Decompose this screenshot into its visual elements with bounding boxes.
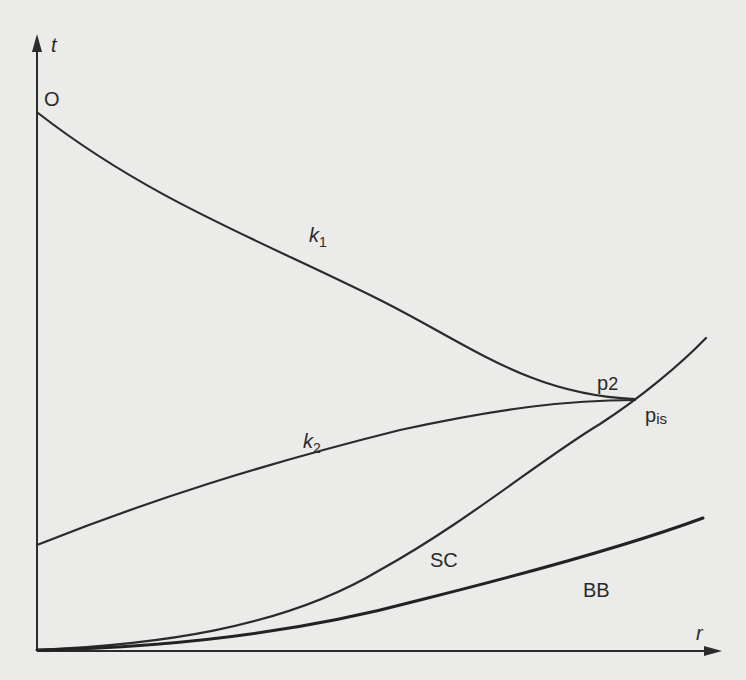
p2-label: p2 [597,372,618,394]
bb-label: BB [583,579,610,601]
sc-label: SC [430,549,458,571]
diagram: t r O k1 k2 SC BB p2 pis [0,0,746,680]
k2-label-sub: 2 [313,440,321,456]
k1-label-sub: 1 [319,234,327,250]
k1-curve [38,113,635,399]
k2-curve [37,400,635,545]
y-axis [32,34,42,651]
x-axis-arrow-icon [704,646,722,656]
x-axis-label: r [696,622,704,644]
k1-label: k1 [309,224,327,250]
p2-label-sub: 2 [608,374,618,394]
y-axis-label: t [51,34,58,56]
x-axis [37,646,722,656]
pis-label-sub: is [656,410,667,427]
pis-label: pis [645,404,667,427]
y-axis-arrow-icon [32,34,42,52]
p2-label-main: p [597,372,608,394]
pis-label-main: p [645,404,656,426]
origin-point-label: O [44,88,60,110]
